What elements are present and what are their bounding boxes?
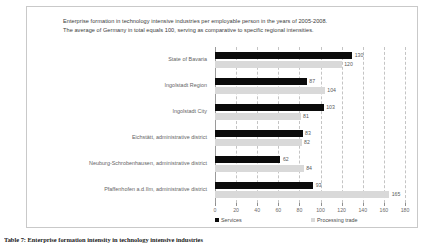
legend-label: Processing trade	[317, 217, 357, 223]
gridline-160	[384, 47, 386, 203]
bar-processing-trade	[215, 87, 325, 94]
x-tick	[405, 203, 406, 206]
category-label: Pfaffenhofen a.d.Ilm, administrative dis…	[104, 186, 207, 192]
x-tick-label: 120	[337, 207, 346, 213]
legend-swatch-icon	[311, 218, 315, 222]
x-tick	[257, 203, 258, 206]
bar-services	[215, 182, 313, 189]
category-axis: State of BavariaIngolstadt RegionIngolst…	[63, 47, 211, 203]
bar-value-label: 81	[303, 113, 309, 120]
legend-item-services[interactable]: Services	[215, 217, 242, 223]
gridline-20	[236, 47, 238, 203]
bar-value-label: 87	[309, 78, 315, 85]
gridline-180	[405, 47, 407, 203]
gridline-140	[363, 47, 365, 203]
bar-value-label: 103	[326, 104, 335, 111]
legend-swatch-icon	[215, 218, 219, 222]
bar-value-label: 130	[355, 52, 364, 59]
bar-value-label: 120	[344, 61, 353, 68]
gridline-0	[215, 47, 217, 203]
bar-services	[215, 52, 352, 59]
gridline-40	[257, 47, 259, 203]
x-tick-label: 0	[214, 207, 217, 213]
bar-services	[215, 156, 280, 163]
category-label: Eichstätt, administrative district	[132, 134, 207, 140]
bar-processing-trade	[215, 165, 304, 172]
bar-value-label: 84	[306, 165, 312, 172]
x-tick-label: 180	[401, 207, 410, 213]
bar-value-label: 82	[304, 139, 310, 146]
bar-processing-trade	[215, 113, 301, 120]
x-tick	[384, 203, 385, 206]
bar-processing-trade	[215, 191, 389, 198]
chart-figure: Enterprise formation in technology inten…	[26, 6, 418, 228]
bar-value-label: 62	[283, 156, 289, 163]
bars-panel: 13012087104103818382628493165	[215, 47, 405, 203]
chart-title-line-2: The average of Germany in total equals 1…	[63, 26, 393, 35]
gridline-120	[342, 47, 344, 203]
x-tick-label: 60	[275, 207, 281, 213]
x-tick-label: 100	[316, 207, 325, 213]
x-tick	[215, 203, 216, 206]
gridline-100	[321, 47, 323, 203]
bar-services	[215, 104, 324, 111]
bar-value-label: 165	[392, 191, 401, 198]
x-tick	[363, 203, 364, 206]
x-tick	[278, 203, 279, 206]
plot-area: State of BavariaIngolstadt RegionIngolst…	[63, 47, 405, 203]
bar-services	[215, 78, 307, 85]
figure-caption: Table 7: Enterprise formation intensity …	[4, 236, 440, 243]
bar-processing-trade	[215, 139, 302, 146]
category-label: Neuburg-Schrobenhausen, administrative d…	[89, 160, 207, 166]
bar-value-label: 93	[316, 182, 322, 189]
category-label: Ingolstadt Region	[165, 82, 207, 88]
legend-label: Services	[221, 217, 242, 223]
category-label: Ingolstadt City	[172, 108, 207, 114]
x-tick-label: 140	[358, 207, 367, 213]
x-axis: 020406080100120140160180	[215, 203, 405, 217]
x-tick-label: 40	[254, 207, 260, 213]
gridline-60	[278, 47, 280, 203]
chart-title: Enterprise formation in technology inten…	[63, 17, 393, 34]
x-tick	[342, 203, 343, 206]
bar-services	[215, 130, 303, 137]
category-label: State of Bavaria	[168, 56, 207, 62]
bar-value-label: 104	[327, 87, 336, 94]
chart-title-line-1: Enterprise formation in technology inten…	[63, 17, 393, 26]
chart-legend: ServicesProcessing trade	[63, 217, 405, 229]
bar-value-label: 83	[305, 130, 311, 137]
x-tick-label: 20	[233, 207, 239, 213]
x-tick	[321, 203, 322, 206]
legend-item-processing-trade[interactable]: Processing trade	[311, 217, 357, 223]
x-tick	[236, 203, 237, 206]
x-tick-label: 80	[297, 207, 303, 213]
bar-processing-trade	[215, 61, 342, 68]
x-tick	[299, 203, 300, 206]
gridline-80	[299, 47, 301, 203]
x-tick-label: 160	[380, 207, 389, 213]
